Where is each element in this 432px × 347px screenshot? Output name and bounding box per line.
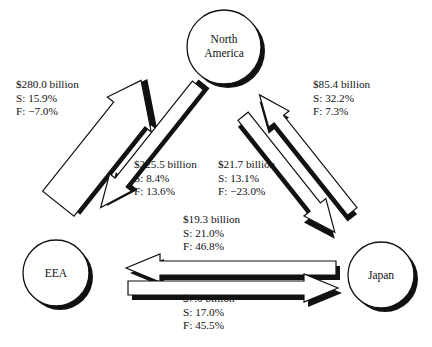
flow-f-value: F: −23.0%	[218, 185, 275, 199]
flow-amount: $280.0 billion	[16, 78, 79, 92]
node-north-america-label-line2: America	[204, 47, 244, 59]
flow-label-japan-to-eea: $19.3 billion S: 21.0% F: 46.8%	[183, 213, 240, 254]
node-japan[interactable]: Japan	[348, 242, 418, 312]
flow-label-japan-to-north-america: $85.4 billion S: 32.2% F: 7.3%	[313, 78, 370, 119]
flow-f-value: F: 13.6%	[134, 185, 197, 199]
flow-s-value: S: 32.2%	[313, 92, 370, 106]
flow-s-value: S: 21.0%	[183, 227, 240, 241]
flow-s-value: S: 13.1%	[218, 172, 275, 186]
flow-amount: $225.5 billion	[134, 158, 197, 172]
flow-f-value: F: 46.8%	[183, 240, 240, 254]
flow-amount: $85.4 billion	[313, 78, 370, 92]
flow-label-eea-to-japan: $7.0 billion S: 17.0% F: 45.5%	[183, 292, 235, 333]
flow-label-north-america-to-japan: $21.7 billion S: 13.1% F: −23.0%	[218, 158, 275, 199]
flow-s-value: S: 8.4%	[134, 172, 197, 186]
node-japan-label: Japan	[368, 269, 394, 282]
trade-flow-diagram: North America EEA Japan $280.0 billion S…	[0, 0, 432, 347]
flow-amount: $21.7 billion	[218, 158, 275, 172]
node-eea-label: EEA	[45, 267, 68, 279]
flow-f-value: F: −7.0%	[16, 105, 79, 119]
flow-amount: $19.3 billion	[183, 213, 240, 227]
flow-s-value: S: 15.9%	[16, 92, 79, 106]
node-north-america[interactable]: North America	[187, 10, 265, 88]
node-north-america-label-line1: North	[211, 33, 238, 45]
node-eea[interactable]: EEA	[23, 240, 93, 310]
flow-f-value: F: 7.3%	[313, 105, 370, 119]
flow-s-value: S: 17.0%	[183, 306, 235, 320]
flow-label-north-america-to-eea: $225.5 billion S: 8.4% F: 13.6%	[134, 158, 197, 199]
flow-f-value: F: 45.5%	[183, 319, 235, 333]
flow-amount: $7.0 billion	[183, 292, 235, 306]
flow-label-eea-to-north-america: $280.0 billion S: 15.9% F: −7.0%	[16, 78, 79, 119]
